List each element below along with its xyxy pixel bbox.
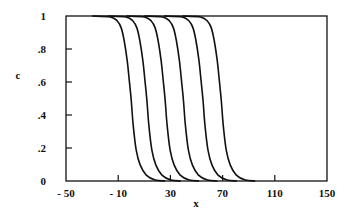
y-tick-label: 0	[41, 175, 47, 187]
y-tick-label: .2	[38, 142, 47, 154]
y-tick-label: 1	[41, 10, 47, 22]
y-tick-label: .4	[38, 109, 47, 121]
concentration-curve	[164, 16, 237, 181]
data-series	[92, 16, 255, 181]
concentration-curve	[182, 16, 255, 181]
x-tick-label: - 50	[57, 187, 75, 199]
concentration-curve	[144, 16, 217, 181]
y-tick-label: .8	[38, 43, 47, 55]
x-tick-label: 150	[319, 187, 336, 199]
x-tick-label: 30	[165, 187, 177, 199]
x-axis: - 50- 103070110150	[57, 175, 335, 199]
concentration-curve	[92, 16, 165, 181]
y-axis-label: c	[16, 69, 21, 81]
y-axis: 0.2.4.6.81	[38, 10, 72, 187]
concentration-curve	[108, 16, 181, 181]
chart: 0.2.4.6.81 - 50- 103070110150 c x	[0, 0, 344, 213]
x-tick-label: 110	[267, 187, 283, 199]
x-axis-label: x	[193, 197, 199, 209]
x-tick-label: 70	[217, 187, 229, 199]
y-tick-label: .6	[38, 76, 47, 88]
x-tick-label: - 10	[109, 187, 127, 199]
